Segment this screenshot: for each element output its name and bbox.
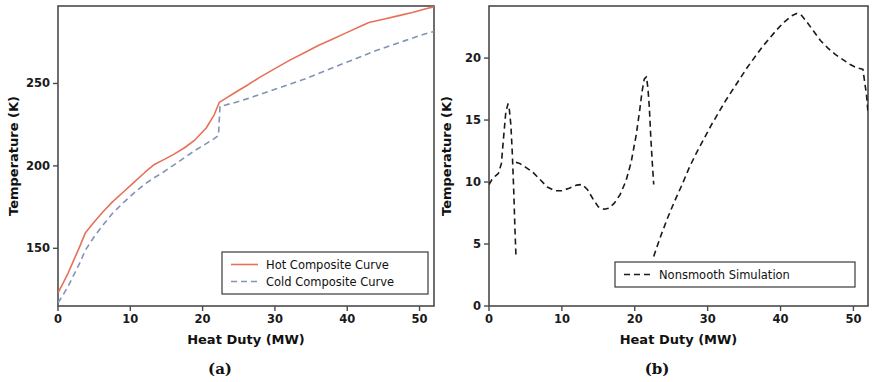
x-tick-label: 10 <box>122 312 138 326</box>
legend: Nonsmooth Simulation <box>615 262 855 287</box>
series-group <box>489 13 868 256</box>
panel-b-caption: (b) <box>437 360 877 378</box>
series-line <box>654 13 868 256</box>
series-line <box>516 77 654 210</box>
y-tick-label: 15 <box>465 113 481 127</box>
y-axis-title: Temperature (K) <box>439 96 454 216</box>
y-tick-label: 200 <box>26 159 50 173</box>
legend-label: Nonsmooth Simulation <box>659 268 790 282</box>
panel-a-caption: (a) <box>0 360 440 378</box>
x-tick-label: 40 <box>339 312 355 326</box>
y-tick-label: 250 <box>26 76 50 90</box>
panel-b-plot: 0102030405005101520Heat Duty (MW)Tempera… <box>437 0 877 348</box>
x-tick-label: 40 <box>773 312 789 326</box>
x-tick-label: 20 <box>627 312 643 326</box>
x-tick-label: 20 <box>195 312 211 326</box>
y-tick-label: 150 <box>26 241 50 255</box>
plot-frame <box>489 6 868 306</box>
y-axis-title: Temperature (K) <box>6 96 21 216</box>
legend-label: Hot Composite Curve <box>266 258 389 272</box>
x-tick-label: 10 <box>554 312 570 326</box>
x-tick-label: 0 <box>485 312 493 326</box>
panel-a-plot: 01020304050150200250Heat Duty (MW)Temper… <box>0 0 440 348</box>
legend-label: Cold Composite Curve <box>266 275 394 289</box>
y-tick-label: 10 <box>465 175 481 189</box>
y-tick-label: 5 <box>473 237 481 251</box>
figure-container: 01020304050150200250Heat Duty (MW)Temper… <box>0 0 877 382</box>
panel-b-nonsmooth-simulation: 0102030405005101520Heat Duty (MW)Tempera… <box>437 0 877 382</box>
series-line <box>489 104 516 256</box>
x-tick-label: 50 <box>845 312 861 326</box>
panel-a-composite-curves: 01020304050150200250Heat Duty (MW)Temper… <box>0 0 440 382</box>
x-tick-label: 30 <box>700 312 716 326</box>
x-tick-label: 50 <box>412 312 428 326</box>
legend: Hot Composite CurveCold Composite Curve <box>222 252 428 294</box>
x-axis-title: Heat Duty (MW) <box>620 332 738 347</box>
x-tick-label: 0 <box>54 312 62 326</box>
y-tick-label: 20 <box>465 51 481 65</box>
x-axis-title: Heat Duty (MW) <box>187 332 305 347</box>
y-tick-label: 0 <box>473 299 481 313</box>
x-tick-label: 30 <box>267 312 283 326</box>
